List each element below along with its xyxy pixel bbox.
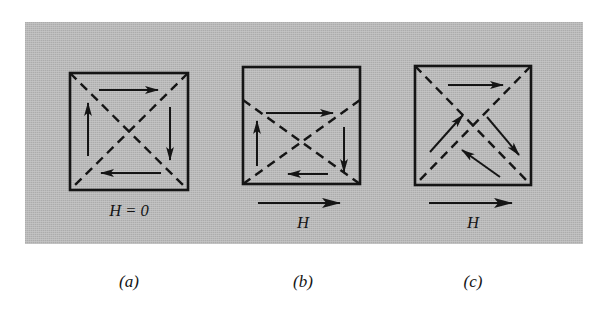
panel-c-field-label: H [466, 213, 480, 232]
caption-panel-c: (c) [443, 272, 503, 292]
panel-b-crystal-outline [243, 67, 360, 184]
caption-panel-b: (b) [273, 272, 333, 292]
panel-b: H [243, 67, 360, 232]
figure-magnetic-domains: H = 0 H H (a) (b) (c [0, 0, 609, 312]
panel-a-field-label: H = 0 [108, 201, 149, 220]
panel-c-arrow-right [487, 117, 519, 155]
panel-a: H = 0 [70, 73, 188, 220]
panel-c: H [415, 66, 531, 232]
panel-b-field-label: H [296, 213, 310, 232]
panel-caption-row: (a) (b) (c) [0, 258, 609, 298]
caption-panel-a: (a) [99, 272, 159, 292]
panel-c-arrow-left [430, 115, 463, 152]
panel-c-arrow-bottom [462, 150, 500, 177]
